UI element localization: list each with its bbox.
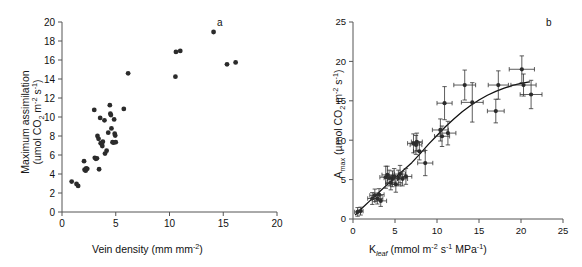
axis-group: 0246810121416182005101520 [44, 17, 283, 229]
data-marker [126, 71, 131, 76]
ylab-b-sub2: 2 [338, 106, 347, 110]
data-marker [440, 134, 444, 138]
data-marker [85, 166, 90, 171]
x-tick-label: 20 [271, 218, 283, 229]
panel-a-y-axis-title-line1: Maximum assimilation [19, 47, 31, 197]
data-points-group [69, 30, 238, 189]
data-marker [496, 83, 500, 87]
data-marker [96, 136, 101, 141]
ylab-a-pre: (umol CO [31, 120, 43, 165]
data-marker [178, 49, 183, 54]
data-marker [404, 174, 408, 178]
y-tick-label: 20 [44, 17, 56, 28]
y-tick-label: 8 [49, 131, 55, 142]
xlab-b-pre: K [369, 243, 376, 255]
data-point [434, 126, 449, 146]
data-marker [520, 67, 524, 71]
ylab-b-sub: max [338, 158, 347, 172]
data-marker [98, 116, 103, 121]
data-marker [69, 179, 74, 184]
data-marker [82, 159, 87, 164]
ylab-a-mid2: s [31, 89, 43, 97]
y-tick-label: 0 [49, 207, 55, 218]
x-tick-label: 5 [113, 218, 119, 229]
data-marker [104, 148, 109, 153]
x-tick-label: 0 [59, 218, 65, 229]
ylab-b-mid: (µmol CO [332, 110, 344, 158]
panel-b-y-axis-title: Amax (µmol CO2 m-2 s-1) [332, 44, 344, 204]
ylab-b-mid3: s [332, 80, 344, 88]
data-marker [113, 133, 118, 138]
data-point [411, 133, 422, 150]
x-tick-label: 0 [350, 225, 355, 236]
y-tick-label: 16 [44, 55, 56, 66]
y-tick-label: 4 [49, 169, 55, 180]
y-tick-label: 2 [49, 188, 55, 199]
data-marker [113, 140, 118, 145]
y-tick-label: 14 [44, 74, 56, 85]
data-marker [463, 83, 467, 87]
y-tick-label: 12 [44, 93, 56, 104]
ylab-b-sup2: -1 [331, 73, 340, 79]
data-marker [225, 62, 230, 67]
ylab-a-tail: ) [31, 79, 43, 83]
xlab-b-mid: (mmol m [388, 243, 432, 255]
data-marker [442, 101, 446, 105]
panel-b: b 05101520250510152025 Amax (µmol CO2 m-… [291, 0, 582, 267]
ylab-b-sup1: -2 [331, 88, 340, 94]
data-marker [97, 167, 102, 172]
xlab-b-tail: ) [483, 243, 487, 255]
data-marker [211, 30, 216, 35]
data-marker [173, 74, 178, 79]
data-points-group [355, 56, 542, 216]
data-marker [102, 118, 107, 123]
data-marker [415, 140, 419, 144]
data-marker [529, 92, 533, 96]
data-marker [107, 103, 112, 108]
data-point [488, 71, 508, 99]
x-tick-label: 10 [432, 225, 443, 236]
xlab-b-mid3: MPa [452, 243, 477, 255]
xlab-b-mid2: s [438, 243, 446, 255]
data-marker [109, 126, 114, 131]
data-marker [174, 50, 179, 55]
data-marker [76, 183, 81, 188]
ylab-b-tail: ) [332, 70, 344, 74]
ylab-a-sup1: -2 [30, 98, 39, 104]
data-marker [446, 131, 450, 135]
data-marker [233, 60, 238, 65]
ylab-b-mid2: m [332, 94, 344, 106]
panel-a-y-axis-title: Maximum assimilation (umol CO2 m-2 s-1) [19, 47, 43, 197]
data-marker [109, 113, 114, 118]
x-tick-label: 15 [218, 218, 230, 229]
panel-a: a 0246810121416182005101520 Maximum assi… [0, 0, 291, 267]
ylab-a-sub: 2 [37, 116, 46, 120]
ylab-a-mid: m [31, 104, 43, 116]
data-point [509, 56, 534, 83]
xlab-a-tail: ) [199, 243, 203, 255]
x-tick-label: 15 [474, 225, 485, 236]
ylab-b-pre: A [332, 171, 344, 178]
data-marker [470, 100, 474, 104]
data-marker [95, 156, 100, 161]
data-marker [121, 107, 126, 112]
xlab-a-main: Vein density (mm mm [92, 243, 193, 255]
panel-a-y-axis-title-line2: (umol CO2 m-2 s-1) [31, 47, 43, 197]
data-point [437, 87, 452, 120]
x-tick-label: 5 [392, 225, 397, 236]
y-tick-label: 0 [341, 213, 346, 224]
data-marker [112, 117, 117, 122]
y-tick-label: 6 [49, 150, 55, 161]
data-marker [423, 161, 427, 165]
data-point [511, 74, 536, 96]
data-marker [494, 109, 498, 113]
panel-a-x-axis-title: Vein density (mm mm-2) [92, 244, 203, 256]
panel-b-x-axis-title: Kleaf (mmol m-2 s-1 MPa-1) [369, 244, 487, 256]
data-marker [100, 139, 105, 144]
data-point [487, 99, 504, 123]
ylab-a-sup2: -1 [30, 83, 39, 89]
data-marker [379, 199, 383, 203]
figure-container: a 0246810121416182005101520 Maximum assi… [0, 0, 582, 267]
data-marker [417, 149, 421, 153]
data-marker [100, 144, 105, 149]
